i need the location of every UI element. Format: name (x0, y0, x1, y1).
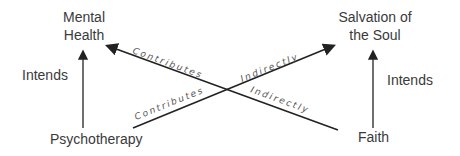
edge-label-psy-indirectly: Indirectly (239, 51, 300, 84)
diagram-canvas: Contributes Contributes Indirectly Indir… (0, 0, 460, 156)
edge-label-left-intends: Intends (22, 67, 68, 83)
edge-label-right-intends: Intends (387, 72, 433, 88)
edge-label-faith-contributes: Contributes (131, 45, 204, 80)
node-faith: Faith (358, 128, 389, 146)
node-psychotherapy: Psychotherapy (50, 130, 143, 148)
node-mental-health: Mental Health (52, 8, 116, 44)
edge-label-faith-indirectly: Indirectly (249, 84, 311, 115)
node-mental-health-line1: Mental (52, 8, 116, 26)
node-mental-health-line2: Health (52, 26, 116, 44)
node-salvation-line1: Salvation of (335, 8, 415, 26)
node-salvation-line2: the Soul (335, 26, 415, 44)
node-salvation-of-the-soul: Salvation of the Soul (335, 8, 415, 44)
